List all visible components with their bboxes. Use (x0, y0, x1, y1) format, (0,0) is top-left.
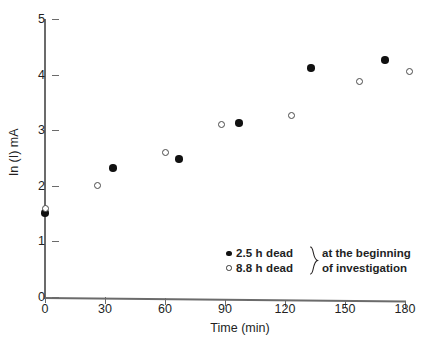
x-tick-label-30: 30 (88, 303, 122, 316)
data-point-s0-1 (109, 164, 117, 172)
x-tick-label-150: 150 (328, 303, 362, 316)
y-axis-line (44, 19, 46, 298)
open-circle-icon (222, 265, 236, 271)
data-point-s0-3 (235, 119, 243, 127)
y-tick-label-1: 1 (29, 235, 45, 248)
y-tick-label-4: 4 (29, 69, 45, 82)
scatter-chart-figure: 0 1 2 3 4 5 0 30 60 90 120 (0, 0, 428, 347)
data-point-s1-6 (406, 68, 413, 75)
x-tick-label-60: 60 (148, 303, 182, 316)
data-point-s0-4 (307, 64, 315, 72)
legend-note-line-1: at the beginning (322, 246, 411, 261)
y-tick-label-2: 2 (29, 180, 45, 193)
data-point-s1-2 (162, 149, 169, 156)
legend-note: at the beginning of investigation (322, 246, 411, 275)
data-point-s0-2 (175, 155, 183, 163)
y-axis-title: ln (I) mA (7, 112, 21, 192)
x-tick-label-120: 120 (268, 303, 302, 316)
legend-row-filled: 2.5 h dead (222, 246, 293, 261)
y-tick-label-3: 3 (29, 124, 45, 137)
y-tick-4: 4 (14, 69, 45, 82)
data-point-s0-5 (381, 56, 389, 64)
filled-circle-icon (222, 251, 236, 257)
x-tick-label-0: 0 (28, 303, 62, 316)
legend-note-line-2: of investigation (322, 261, 411, 276)
x-axis-title: Time (min) (160, 321, 320, 335)
legend-row-open: 8.8 h dead (222, 261, 293, 276)
chart-legend: 2.5 h dead 8.8 h dead at the beginning o… (222, 246, 293, 275)
y-tick-1: 1 (14, 235, 45, 248)
curly-brace-icon (309, 246, 319, 275)
x-tick-label-180: 180 (388, 303, 422, 316)
data-point-s1-4 (288, 112, 295, 119)
data-point-s1-0 (42, 205, 49, 212)
y-tick-5: 5 (14, 13, 45, 26)
x-tick-label-90: 90 (208, 303, 242, 316)
y-tick-label-5: 5 (29, 13, 45, 26)
data-point-s1-1 (94, 182, 101, 189)
data-point-s1-3 (218, 121, 225, 128)
legend-label-filled: 2.5 h dead (236, 246, 293, 261)
data-point-s1-5 (356, 78, 363, 85)
legend-label-open: 8.8 h dead (236, 261, 293, 276)
